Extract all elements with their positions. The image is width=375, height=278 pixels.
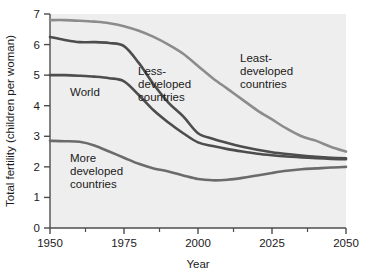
y-tick-label: 1 bbox=[34, 191, 40, 203]
x-tick-label: 1975 bbox=[111, 237, 137, 249]
annotation-line: developed bbox=[240, 65, 293, 77]
x-tick-label: 2025 bbox=[259, 237, 285, 249]
annotation-line: developed bbox=[138, 78, 191, 90]
annotation-line: Least- bbox=[240, 52, 272, 64]
x-tick-label: 2050 bbox=[333, 237, 359, 249]
annotation-line: countries bbox=[240, 78, 287, 90]
x-tick-label: 2000 bbox=[185, 237, 211, 249]
annotation-line: countries bbox=[70, 178, 117, 190]
x-axis-title: Year bbox=[186, 258, 209, 270]
x-axis-ticks: 19501975200020252050 bbox=[37, 228, 359, 249]
y-tick-label: 5 bbox=[34, 69, 40, 81]
y-tick-label: 3 bbox=[34, 130, 40, 142]
annotation-line: World bbox=[70, 86, 100, 98]
annotation-line: More bbox=[70, 152, 96, 164]
plot-background bbox=[50, 14, 346, 228]
annotation-line: Less- bbox=[138, 65, 166, 77]
y-tick-label: 0 bbox=[34, 222, 40, 234]
fertility-line-chart: 01234567 19501975200020252050 WorldLess-… bbox=[0, 0, 375, 278]
world-label: World bbox=[70, 86, 100, 98]
y-tick-label: 6 bbox=[34, 39, 40, 51]
y-tick-label: 7 bbox=[34, 8, 40, 20]
annotation-line: countries bbox=[138, 91, 185, 103]
annotation-line: developed bbox=[70, 165, 123, 177]
y-tick-label: 2 bbox=[34, 161, 40, 173]
x-tick-label: 1950 bbox=[37, 237, 63, 249]
y-axis-ticks: 01234567 bbox=[34, 8, 50, 234]
y-tick-label: 4 bbox=[34, 100, 41, 112]
chart-figure: 01234567 19501975200020252050 WorldLess-… bbox=[0, 0, 375, 278]
y-axis-title: Total fertility (children per woman) bbox=[4, 35, 16, 207]
